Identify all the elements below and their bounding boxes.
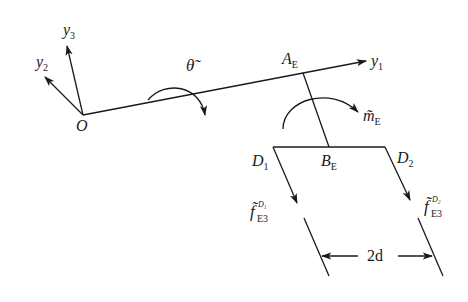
moment-label: m̃E xyxy=(363,107,381,127)
axis-y1-label: y1 xyxy=(369,52,383,72)
point-D2-label: D2 xyxy=(396,149,414,169)
axis-y1-arrow xyxy=(83,61,366,115)
dimension-line-right xyxy=(418,218,443,276)
dimension-label: 2d xyxy=(367,247,383,264)
link-AE-BE xyxy=(303,73,329,147)
axis-y2-arrow xyxy=(45,77,83,115)
axis-y3-label: y3 xyxy=(61,21,75,41)
svg-text:D₂: D₂ xyxy=(431,195,441,204)
force-D1-label: f̃ D₁ E3 xyxy=(250,200,268,224)
axis-y3-arrow xyxy=(67,46,83,115)
dimension-line-left xyxy=(304,218,329,276)
point-D1-label: D1 xyxy=(251,152,269,172)
force-D2-label: f̃ D₂ E3 xyxy=(424,195,442,219)
svg-text:E3: E3 xyxy=(431,208,442,219)
mechanics-diagram: O y1 y2 y3 θ̃ AE m̃E BE D1 D2 f̃ D₁ E3 f… xyxy=(0,0,468,302)
point-B-label: BE xyxy=(321,152,337,172)
theta-label: θ̃ xyxy=(186,56,201,75)
svg-text:D₁: D₁ xyxy=(257,200,267,209)
axis-y2-label: y2 xyxy=(34,53,48,73)
point-A-label: AE xyxy=(281,50,298,70)
force-D1-arrow xyxy=(273,147,297,203)
svg-text:E3: E3 xyxy=(257,213,268,224)
origin-label: O xyxy=(76,117,88,134)
